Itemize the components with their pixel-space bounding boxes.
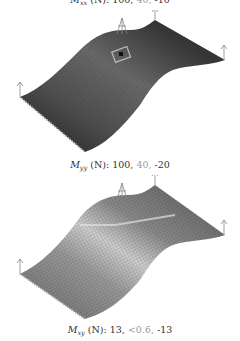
caption-mid: 40,: [136, 0, 151, 5]
caption-max: 13,: [110, 324, 125, 335]
surface-plot-mxy: [0, 175, 240, 320]
caption-mxx: Mxx (N): 100, 40, -10: [0, 0, 240, 7]
caption-unit: (N):: [90, 159, 109, 170]
caption-symbol: M: [68, 324, 78, 335]
caption-min: -13: [157, 324, 172, 335]
caption-mid: <0.6,: [128, 324, 154, 335]
caption-symbol: M: [70, 0, 80, 5]
caption-mxy: Mxy (N): 13, <0.6, -13: [0, 324, 240, 337]
caption-symbol: M: [70, 159, 80, 170]
caption-subscript: xx: [80, 0, 87, 7]
surface-plot-myy: [0, 10, 240, 155]
caption-subscript: yy: [80, 164, 87, 172]
caption-unit: (N):: [90, 0, 109, 5]
caption-unit: (N):: [88, 324, 107, 335]
caption-mid: 40,: [136, 159, 151, 170]
caption-min: -20: [155, 159, 170, 170]
caption-max: 100,: [112, 159, 133, 170]
caption-myy: Myy (N): 100, 40, -20: [0, 159, 240, 172]
caption-max: 100,: [112, 0, 133, 5]
caption-subscript: xy: [77, 329, 84, 337]
caption-min: -10: [155, 0, 170, 5]
